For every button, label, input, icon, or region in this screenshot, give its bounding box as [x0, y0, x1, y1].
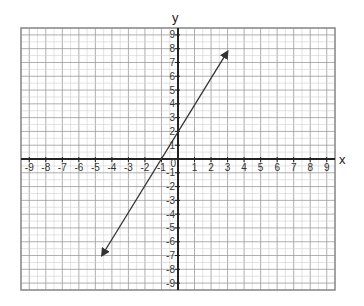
y-tick-label: 7: [169, 57, 175, 68]
x-tick-label: -8: [41, 162, 50, 173]
coordinate-plane: -9-8-7-6-5-4-3-2-1123456789-9-8-7-6-5-4-…: [0, 0, 364, 306]
y-tick-label: 3: [169, 112, 175, 123]
x-tick-label: 6: [274, 162, 280, 173]
x-tick-label: 9: [324, 162, 330, 173]
y-tick-label: 2: [169, 126, 175, 137]
x-axis-label: x: [339, 152, 346, 167]
x-tick-label: 4: [241, 162, 247, 173]
origin-label: 0: [170, 158, 176, 169]
x-tick-label: 2: [208, 162, 214, 173]
y-tick-label: -8: [166, 264, 175, 275]
y-tick-label: 9: [169, 29, 175, 40]
x-tick-label: 8: [307, 162, 313, 173]
y-tick-label: -6: [166, 236, 175, 247]
data-series: [102, 51, 228, 255]
y-tick-label: 5: [169, 85, 175, 96]
x-tick-label: -9: [25, 162, 34, 173]
x-tick-label: -5: [91, 162, 100, 173]
y-tick-label: -9: [166, 278, 175, 289]
x-tick-label: 1: [192, 162, 198, 173]
y-tick-label: -3: [166, 195, 175, 206]
x-tick-label: -7: [58, 162, 67, 173]
x-tick-label: 7: [291, 162, 297, 173]
x-tick-label: -6: [74, 162, 83, 173]
y-axis-label: y: [172, 10, 179, 25]
y-tick-label: 6: [169, 71, 175, 82]
x-tick-label: -2: [140, 162, 149, 173]
y-tick-label: -4: [166, 209, 175, 220]
x-tick-label: 3: [225, 162, 231, 173]
y-tick-label: 8: [169, 43, 175, 54]
linear-function-line: [102, 51, 228, 255]
y-tick-label: 4: [169, 98, 175, 109]
y-tick-label: -5: [166, 222, 175, 233]
x-tick-label: -4: [107, 162, 116, 173]
y-tick-label: -7: [166, 250, 175, 261]
x-tick-label: 5: [258, 162, 264, 173]
x-tick-label: -3: [124, 162, 133, 173]
y-tick-label: -2: [166, 181, 175, 192]
